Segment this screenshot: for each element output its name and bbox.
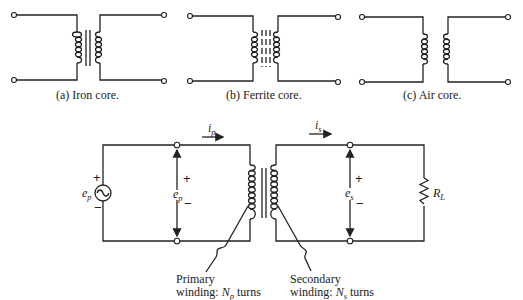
wire — [16, 15, 77, 32]
terminal — [506, 15, 511, 20]
ac-source-icon — [95, 185, 111, 201]
caption-air-core: (c) Air core. — [403, 88, 461, 102]
secondary-winding-leader — [278, 206, 311, 271]
terminal — [360, 80, 365, 85]
terminal — [162, 13, 167, 18]
primary-voltage-label: ep — [173, 187, 183, 203]
terminal — [162, 79, 167, 84]
primary-coil-icon — [73, 32, 82, 63]
primary-coil-icon — [252, 32, 258, 63]
secondary-terminal-top — [347, 142, 353, 148]
wire — [364, 64, 423, 82]
primary-terminal-bottom — [174, 238, 180, 244]
primary-winding-caption-line1: Primary — [176, 272, 215, 286]
secondary-plus-sign: + — [355, 171, 363, 186]
secondary-minus-sign: − — [356, 196, 364, 211]
secondary-coil-icon — [444, 34, 450, 64]
terminal — [188, 79, 193, 84]
wire — [100, 15, 162, 32]
primary-coil-icon — [422, 34, 428, 64]
terminal — [336, 80, 341, 85]
wire — [278, 16, 336, 32]
wire — [278, 63, 336, 81]
iron-core-icon — [262, 168, 266, 218]
secondary-winding-caption-line2: winding: Ns turns — [290, 285, 374, 300]
wire — [364, 17, 423, 34]
terminal — [336, 15, 341, 20]
terminal — [188, 14, 193, 19]
source-voltage-label: ep — [82, 186, 92, 202]
wire — [448, 17, 506, 34]
figure-air-core: (c) Air core. — [360, 15, 511, 103]
wire — [448, 64, 506, 82]
wire — [100, 63, 162, 80]
primary-winding-coil-icon — [249, 165, 256, 219]
transformer-diagram: (a) Iron core. (b) Ferrite core. — [0, 0, 523, 300]
terminal — [360, 15, 365, 20]
primary-current-label: ip — [208, 121, 216, 137]
figure-iron-core: (a) Iron core. — [12, 13, 167, 103]
source-plus-sign: + — [93, 170, 101, 185]
primary-winding-leader — [206, 206, 248, 272]
ferrite-core-icon — [262, 30, 270, 67]
resistor-icon — [420, 178, 428, 204]
primary-plus-sign: + — [183, 171, 191, 186]
source-minus-sign: − — [94, 200, 102, 215]
terminal — [12, 78, 17, 83]
secondary-coil-icon — [96, 32, 102, 63]
secondary-winding-coil-icon — [271, 165, 278, 219]
wire — [16, 63, 77, 80]
terminal — [12, 13, 17, 18]
secondary-coil-icon — [274, 32, 280, 63]
figure-ferrite-core: (b) Ferrite core. — [188, 14, 341, 103]
secondary-winding-caption-line1: Secondary — [290, 272, 341, 286]
secondary-voltage-label: es — [345, 186, 354, 202]
wire — [192, 16, 253, 32]
load-resistor-label: RL — [432, 186, 445, 202]
terminal — [506, 80, 511, 85]
primary-winding-caption-line2: winding: Np turns — [176, 285, 261, 300]
secondary-current-label: is — [315, 118, 322, 134]
caption-iron-core: (a) Iron core. — [56, 88, 119, 102]
primary-minus-sign: − — [184, 196, 192, 211]
wire — [192, 63, 253, 81]
iron-core-icon — [86, 30, 90, 66]
caption-ferrite-core: (b) Ferrite core. — [226, 88, 302, 102]
transformer-circuit: + − ep ep + − ip RL — [82, 118, 445, 300]
secondary-terminal-bottom — [347, 238, 353, 244]
primary-terminal-top — [174, 142, 180, 148]
